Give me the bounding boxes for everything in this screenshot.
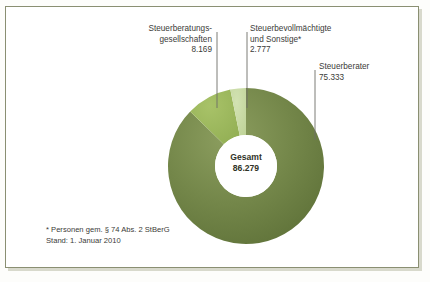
label-steuerberater: Steuerberater 75.333 [319, 62, 369, 83]
label-line-2: und Sonstige* [250, 35, 331, 46]
label-line-2: gesellschaften [128, 35, 212, 46]
center-value: 86.279 [206, 163, 286, 174]
footnote-line-1: * Personen gem. § 74 Abs. 2 StBerG [46, 224, 170, 235]
donut-center-label: Gesamt 86.279 [206, 152, 286, 175]
label-line-1: Steuerberater [319, 62, 369, 73]
label-steuerberatungsgesellschaften: Steuerberatungs- gesellschaften 8.169 [128, 24, 212, 56]
label-line-1: Steuerbevollmächtigte [250, 24, 331, 35]
label-value: 2.777 [250, 45, 331, 56]
label-value: 8.169 [128, 45, 212, 56]
label-value: 75.333 [319, 73, 369, 84]
center-title: Gesamt [206, 152, 286, 163]
label-steuerbevollmaechtigte: Steuerbevollmächtigte und Sonstige* 2.77… [250, 24, 331, 56]
footnote-line-2: Stand: 1. Januar 2010 [46, 235, 170, 246]
chart-figure: Steuerberatungs- gesellschaften 8.169 St… [0, 0, 430, 282]
footnote: * Personen gem. § 74 Abs. 2 StBerG Stand… [46, 224, 170, 246]
label-line-1: Steuerberatungs- [128, 24, 212, 35]
